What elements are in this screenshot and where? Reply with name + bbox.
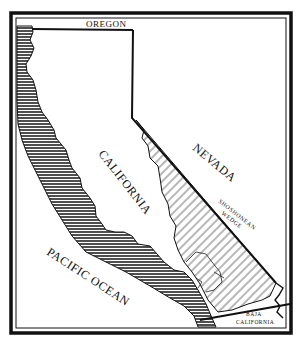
label-nevada: NEVADA (190, 141, 239, 185)
label-california: CALIFORNIA (96, 147, 155, 217)
oregon-border (32, 29, 133, 30)
label-baja-line1: BAJA (246, 311, 262, 317)
label-oregon: OREGON (86, 19, 127, 29)
colorado-river-border (275, 283, 283, 318)
california-map: OREGON NEVADA CALIFORNIA PACIFIC OCEAN S… (0, 0, 301, 343)
label-baja-line2: CALIFORNIA (236, 319, 274, 325)
